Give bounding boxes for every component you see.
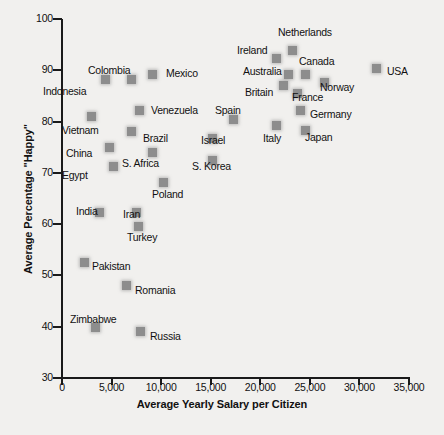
y-tick-80 [53, 121, 62, 123]
y-tick-70 [53, 172, 62, 174]
data-point-label: Venezuela [151, 104, 198, 116]
data-point-label: Russia [150, 330, 181, 342]
data-point-label: Zimbabwe [70, 313, 116, 325]
data-point-label: Canada [299, 55, 334, 67]
x-axis-title: Average Yearly Salary per Citizen [0, 398, 444, 410]
data-point [87, 112, 96, 121]
data-point [109, 162, 118, 171]
y-tick-100 [53, 18, 62, 20]
data-point-label: S. Korea [192, 160, 231, 172]
data-point-label: Pakistan [92, 260, 130, 272]
data-point-label: Romania [135, 284, 175, 296]
data-point [159, 178, 168, 187]
y-axis-title: Average Percentage "Happy" [22, 49, 34, 349]
data-point [279, 81, 288, 90]
y-tick-50 [53, 274, 62, 276]
data-point-label: Colombia [88, 64, 130, 76]
data-point [122, 281, 131, 290]
data-point [134, 222, 143, 231]
data-point [272, 121, 281, 130]
data-point-label: Indonesia [43, 85, 86, 97]
data-point-label: Brazil [143, 132, 168, 144]
data-point [148, 70, 157, 79]
data-point-label: Mexico [166, 67, 198, 79]
data-point-label: Japan [305, 131, 332, 143]
y-tick-label-100: 100 [13, 12, 53, 24]
data-point-label: Iran [123, 208, 140, 220]
data-point [105, 143, 114, 152]
data-point-label: Poland [152, 188, 183, 200]
data-point-label: Egypt [62, 169, 88, 181]
data-point [127, 127, 136, 136]
data-point-label: USA [387, 65, 408, 77]
data-point-label: Turkey [127, 231, 157, 243]
data-point [284, 70, 293, 79]
data-point [296, 106, 305, 115]
data-point-label: Vietnam [62, 124, 99, 136]
data-point-label: Spain [215, 104, 241, 116]
data-point-label: India [76, 205, 98, 217]
data-point [135, 106, 144, 115]
data-point-label: Israel [201, 134, 225, 146]
data-point-label: Ireland [237, 44, 267, 56]
data-point-label: Italy [263, 132, 281, 144]
data-point [272, 54, 281, 63]
data-point-label: Germany [310, 108, 351, 120]
data-point [148, 148, 157, 157]
x-tick-label-35000: 35,000 [379, 381, 439, 393]
data-point [229, 115, 238, 124]
data-point-label: Netherlands [278, 26, 332, 38]
data-point [127, 75, 136, 84]
y-tick-90 [53, 69, 62, 71]
data-point [301, 70, 310, 79]
y-tick-60 [53, 223, 62, 225]
data-point [101, 75, 110, 84]
data-point [372, 64, 381, 73]
data-point [288, 46, 297, 55]
data-point-label: Britain [245, 86, 273, 98]
data-point-label: China [66, 147, 92, 159]
scatter-chart: 30405060708090100 05,00010,00015,00020,0… [0, 0, 444, 435]
data-point-label: Norway [320, 81, 354, 93]
data-point-label: S. Africa [122, 157, 159, 169]
y-tick-40 [53, 326, 62, 328]
data-point [80, 258, 89, 267]
data-point-label: Australia [243, 65, 282, 77]
data-point-label: France [292, 91, 323, 103]
data-point [136, 327, 145, 336]
plot-area: 30405060708090100 05,00010,00015,00020,0… [0, 0, 444, 435]
